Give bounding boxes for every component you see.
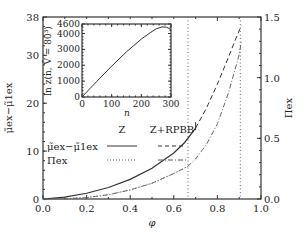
inset-x-tick-label: 200 (133, 99, 150, 109)
y-left-tick-label: 0 (33, 194, 39, 205)
inset-y-axis-label: ln z(n, V̄ = 80³) (42, 26, 53, 96)
legend-col-z: Z (119, 124, 126, 135)
inset-border (82, 24, 171, 97)
series-line (43, 166, 188, 199)
legend-row-mu: μ̃ex−μ̃1ex (47, 141, 98, 152)
inset-y-tick-label: 3000 (57, 44, 80, 54)
series-line (196, 26, 242, 128)
legend-row-pi: Πex (47, 155, 68, 166)
y-left-tick-label: 10 (26, 146, 39, 157)
inset-y-tick-label: 1000 (57, 76, 80, 86)
y-right-tick-label: 1.5 (264, 12, 280, 23)
y-right-tick-label: 1.0 (264, 73, 280, 84)
inset-x-tick-label: 300 (162, 99, 179, 109)
vertical-reference-lines (188, 17, 240, 199)
inset-x-tick-label: 0 (79, 99, 85, 109)
y-left-tick-label: 30 (26, 50, 39, 61)
inset-y-tick-label: 4000 (57, 29, 80, 39)
x-tick-label: 0.8 (209, 203, 225, 214)
x-tick-label: 0.6 (166, 203, 182, 214)
y-left-tick-label: 20 (26, 98, 39, 109)
inset-plot: 0100200300010002000300040004600 (56, 19, 180, 122)
y-left-axis-label: μ̃ex−μ̃1ex (3, 82, 14, 133)
x-tick-label: 0.4 (122, 203, 138, 214)
x-tick-label: 0.2 (79, 203, 95, 214)
y-right-tick-label: 0.5 (264, 133, 280, 144)
y-left-tick-label: 38 (26, 12, 39, 23)
y-right-axis-label: Πex (283, 98, 294, 119)
inset-x-axis-label: n (124, 108, 130, 118)
legend-col-z-rpbb: Z+RPBB (150, 124, 194, 135)
inset-x-tick-label: 100 (103, 99, 120, 109)
inset-y-tick-label: 2000 (57, 60, 80, 70)
inset-y-tick-label: 0 (74, 92, 80, 102)
inset-y-tick-label: 4600 (57, 19, 80, 29)
x-axis-label: φ (148, 217, 155, 228)
chart: 0.00.20.40.60.81.00102030380.00.51.01.5 … (0, 0, 305, 237)
legend: Z Z+RPBB μ̃ex−μ̃1ex Πex (47, 124, 194, 166)
y-right-tick-label: 0.0 (264, 194, 280, 205)
